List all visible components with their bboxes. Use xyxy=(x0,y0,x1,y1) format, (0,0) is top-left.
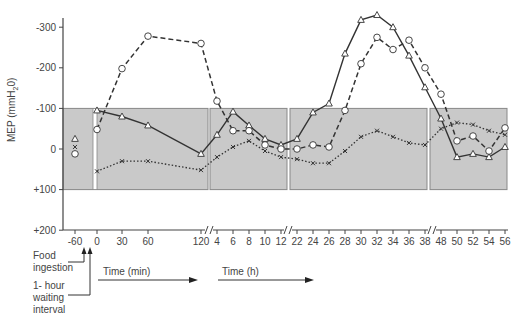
x-tick-label: 30 xyxy=(116,236,128,247)
circle-marker-icon xyxy=(246,127,253,134)
y-tick-label: +200 xyxy=(33,225,56,236)
x-tick-label: 24 xyxy=(307,236,319,247)
x-tick-label: 48 xyxy=(435,236,447,247)
waiting-interval-label: 1- hour waiting interval xyxy=(33,280,65,315)
waiting-line-1: 1- hour xyxy=(33,280,65,292)
circle-marker-icon xyxy=(119,65,126,72)
circle-marker-icon xyxy=(358,60,365,67)
x-tick-label: 54 xyxy=(483,236,495,247)
x-tick-label: 36 xyxy=(403,236,415,247)
y-tick-label: 0 xyxy=(50,144,56,155)
circle-marker-icon xyxy=(454,138,461,145)
waiting-line-2: waiting xyxy=(33,292,65,304)
x-tick-label: 10 xyxy=(259,236,271,247)
waiting-line-3: interval xyxy=(33,304,65,315)
x-tick-label: 4 xyxy=(214,236,220,247)
circle-marker-icon xyxy=(214,98,221,105)
circle-marker-icon xyxy=(294,146,301,153)
y-tick-label: -200 xyxy=(36,62,56,73)
arrow-up-icon xyxy=(82,247,87,254)
normal-band-2 xyxy=(290,108,427,189)
x-tick-label: 56 xyxy=(499,236,511,247)
circle-marker-icon xyxy=(145,33,152,40)
x-tick-label: 120 xyxy=(193,236,210,247)
x-tick-label: 0 xyxy=(94,236,100,247)
food-ingestion-line-1: Food xyxy=(33,250,73,262)
arrow-right-icon xyxy=(305,277,314,283)
x-tick-label: 30 xyxy=(355,236,367,247)
triangle-marker-icon xyxy=(342,50,349,56)
circle-marker-icon xyxy=(198,40,205,47)
circle-marker-icon xyxy=(422,65,429,72)
y-axis-label-main: MEP (mmH xyxy=(6,91,17,142)
triangle-marker-icon xyxy=(326,100,333,106)
x-tick-label: 34 xyxy=(387,236,399,247)
circle-marker-icon xyxy=(342,107,349,114)
x-tick-label: 60 xyxy=(142,236,154,247)
circle-marker-icon xyxy=(310,142,317,149)
circle-marker-icon xyxy=(94,126,101,133)
x-tick-label: 12 xyxy=(275,236,287,247)
x-tick-label: 8 xyxy=(246,236,252,247)
circle-marker-icon xyxy=(390,46,397,53)
normal-band-1 xyxy=(210,108,287,189)
arrow-up-icon xyxy=(88,247,93,254)
circle-marker-icon xyxy=(278,146,285,153)
y-axis-label-sub: 2 xyxy=(12,87,19,91)
y-axis-label: MEP (mmH20) xyxy=(6,78,22,142)
x-tick-label: 52 xyxy=(467,236,479,247)
circle-marker-icon xyxy=(406,37,413,44)
triangle-marker-icon xyxy=(406,52,413,58)
circle-marker-icon xyxy=(374,34,381,41)
arrow-right-icon xyxy=(189,277,198,283)
circle-marker-icon xyxy=(326,144,333,151)
circle-marker-icon xyxy=(230,127,237,134)
x-tick-label: 38 xyxy=(419,236,431,247)
circle-marker-icon xyxy=(502,125,509,132)
y-tick-label: +100 xyxy=(33,184,56,195)
y-tick-labels: -300-200-1000+100+200 xyxy=(33,22,63,236)
y-tick-label: -100 xyxy=(36,103,56,114)
x-tick-label: 26 xyxy=(323,236,335,247)
y-axis-label-tail: 0) xyxy=(6,78,17,87)
food-ingestion-label: Food ingestion xyxy=(33,250,73,274)
circle-marker-icon xyxy=(486,148,493,155)
x-tick-label: 50 xyxy=(451,236,463,247)
triangle-marker-icon xyxy=(422,84,429,90)
x-tick-label: 6 xyxy=(230,236,236,247)
circle-marker-icon xyxy=(72,151,79,158)
time-min-label: Time (min) xyxy=(103,266,150,278)
x-tick-label: -60 xyxy=(68,236,83,247)
x-tick-label: 32 xyxy=(371,236,383,247)
x-tick-label: 22 xyxy=(291,236,303,247)
time-h-label: Time (h) xyxy=(222,266,259,278)
food-ingestion-line-2: ingestion xyxy=(33,262,73,274)
time-zero-stripe xyxy=(93,108,97,189)
triangle-marker-icon xyxy=(374,12,381,18)
mep-chart: -300-200-1000+100+200 -60030601204681012… xyxy=(0,0,520,315)
circle-marker-icon xyxy=(262,142,269,149)
x-tick-label: 28 xyxy=(339,236,351,247)
circle-marker-icon xyxy=(470,133,477,140)
y-tick-label: -300 xyxy=(36,22,56,33)
circle-marker-icon xyxy=(438,91,445,98)
